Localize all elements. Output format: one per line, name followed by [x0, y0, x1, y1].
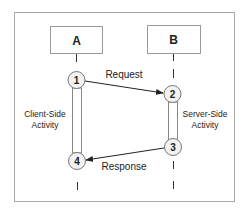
svg-text:4: 4 — [74, 156, 80, 167]
request-label: Request — [105, 69, 142, 80]
step-1: 1 — [68, 72, 85, 89]
svg-text:2: 2 — [170, 89, 176, 100]
step-4: 4 — [69, 153, 86, 170]
svg-text:Activity: Activity — [32, 120, 60, 130]
sequence-diagram: A B Request Response 1 2 3 4 — [0, 0, 247, 212]
svg-text:Server-Side: Server-Side — [183, 109, 228, 119]
response-label: Response — [101, 161, 146, 172]
svg-text:Activity: Activity — [192, 120, 220, 130]
svg-text:3: 3 — [170, 142, 176, 153]
svg-text:Client-Side: Client-Side — [24, 109, 66, 119]
activation-bar-a — [73, 88, 82, 153]
step-3: 3 — [165, 139, 182, 156]
diagram-frame — [15, 13, 235, 202]
activation-bar-b — [169, 102, 178, 140]
svg-text:1: 1 — [74, 75, 80, 86]
step-2: 2 — [164, 86, 181, 103]
participant-a: A — [51, 27, 103, 54]
participant-b-label: B — [169, 33, 178, 47]
participant-a-label: A — [72, 34, 81, 48]
participant-b: B — [148, 26, 201, 54]
